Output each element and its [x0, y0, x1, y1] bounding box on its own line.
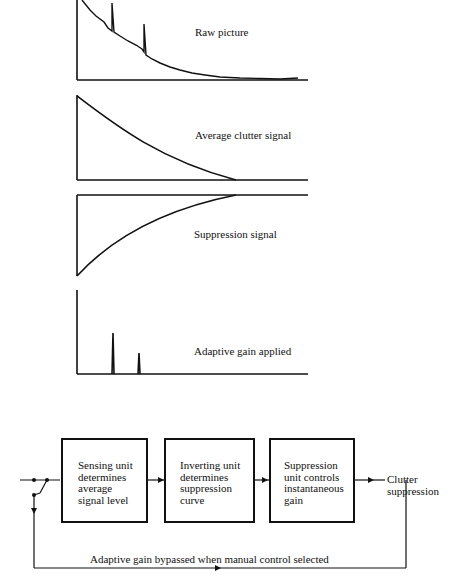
- suppression-signal-label: Suppression signal: [194, 228, 277, 240]
- inverting-unit-text: Inverting unit determines suppression cu…: [180, 460, 240, 506]
- suppression-unit-block: Suppression unit controls instantaneous …: [269, 438, 355, 523]
- average-clutter-label: Average clutter signal: [195, 129, 291, 141]
- clutter-suppression-output: Clutter suppression: [387, 474, 439, 497]
- bypass-label: Adaptive gain bypassed when manual contr…: [90, 553, 329, 565]
- adaptive-gain-label: Adaptive gain applied: [194, 345, 291, 357]
- inverting-unit-block: Inverting unit determines suppression cu…: [164, 438, 255, 523]
- suppression-unit-text: Suppression unit controls instantaneous …: [284, 460, 344, 506]
- raw-picture-label: Raw picture: [195, 26, 248, 38]
- sensing-unit-block: Sensing unit determines average signal l…: [61, 438, 148, 523]
- sensing-unit-text: Sensing unit determines average signal l…: [78, 460, 133, 506]
